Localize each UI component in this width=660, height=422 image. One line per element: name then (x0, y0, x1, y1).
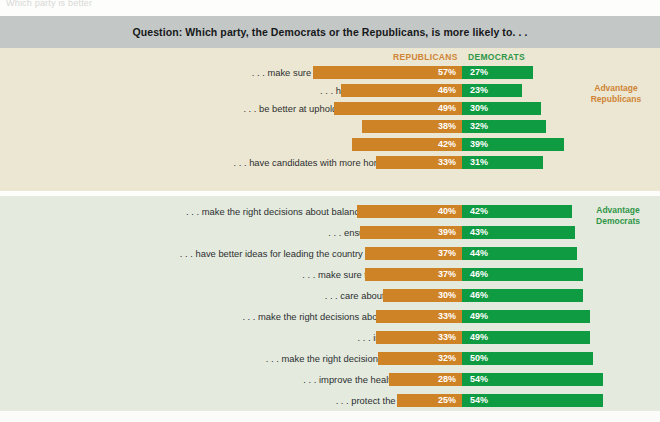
row-bars: 37%44% (0, 245, 660, 262)
value-republican: 38% (418, 120, 456, 133)
callout-advantage-republicans: Advantage Republicans (578, 83, 654, 105)
chart-row: . . . ensure a strong economy?39%43% (0, 224, 660, 241)
value-republican: 46% (418, 84, 456, 97)
value-democrat: 49% (470, 331, 508, 344)
question-text: Question: Which party, the Democrats or … (132, 26, 527, 38)
question-banner: Question: Which party, the Democrats or … (0, 16, 660, 48)
value-republican: 30% (418, 289, 456, 302)
page-bottom-edge (0, 411, 660, 422)
callout-advantage-democrats: Advantage Democrats (580, 205, 656, 227)
chart-row: . . . have better ideas for leading the … (0, 245, 660, 262)
value-republican: 42% (418, 138, 456, 151)
value-democrat: 54% (470, 394, 508, 407)
value-republican: 40% (418, 205, 456, 218)
value-republican: 33% (418, 310, 456, 323)
row-bars: 38%32% (0, 118, 660, 135)
value-republican: 33% (418, 156, 456, 169)
cropped-header-text: Which party is better (6, 0, 246, 10)
value-democrat: 42% (470, 205, 508, 218)
value-democrat: 43% (470, 226, 508, 239)
legend-republicans: REPUBLICANS (393, 52, 458, 62)
row-bars: 42%39% (0, 136, 660, 153)
value-democrat: 23% (470, 84, 508, 97)
chart-row: . . . make the right decisions about Med… (0, 350, 660, 367)
chart-row: . . . improve education?33%49% (0, 329, 660, 346)
value-republican: 57% (418, 66, 456, 79)
row-bars: 49%30% (0, 100, 660, 117)
row-bars: 30%46% (0, 287, 660, 304)
value-democrat: 39% (470, 138, 508, 151)
value-democrat: 32% (470, 120, 508, 133)
chart-row: . . . make the right decisions about Soc… (0, 308, 660, 325)
value-republican: 32% (418, 352, 456, 365)
chart-row: . . . improve the health-care system?28%… (0, 371, 660, 388)
value-democrat: 46% (470, 268, 508, 281)
chart-row: . . . make the right decisions about bal… (0, 203, 660, 220)
value-democrat: 44% (470, 247, 508, 260)
callout-dem-line2: Democrats (580, 216, 656, 227)
row-bars: 28%54% (0, 371, 660, 388)
callout-rep-line1: Advantage (578, 83, 654, 94)
value-republican: 39% (418, 226, 456, 239)
value-republican: 37% (418, 247, 456, 260)
legend-democrats: DEMOCRATS (468, 52, 525, 62)
chart-row: . . . protect the environment?25%54% (0, 392, 660, 409)
chart-row: . . . reduce taxes?42%39% (0, 136, 660, 153)
row-bars: 57%27% (0, 64, 660, 81)
value-democrat: 31% (470, 156, 508, 169)
value-democrat: 46% (470, 289, 508, 302)
chart-row: . . . be better at upholding traditional… (0, 100, 660, 117)
row-bars: 33%31% (0, 154, 660, 171)
chart-row: . . . make sure U.S. military defenses a… (0, 64, 660, 81)
value-democrat: 54% (470, 373, 508, 386)
value-democrat: 30% (470, 102, 508, 115)
value-republican: 28% (418, 373, 456, 386)
row-bars: 40%42% (0, 203, 660, 220)
callout-rep-line2: Republicans (578, 94, 654, 105)
chart-row: . . . make sure the tax system is fair?3… (0, 266, 660, 283)
value-republican: 37% (418, 268, 456, 281)
callout-dem-line1: Advantage (580, 205, 656, 216)
chart-row: . . . care about people like you?30%46% (0, 287, 660, 304)
value-democrat: 27% (470, 66, 508, 79)
chart-row: . . . have candidates with more honesty … (0, 154, 660, 171)
row-bars: 37%46% (0, 266, 660, 283)
row-bars: 46%23% (0, 82, 660, 99)
chart-row: . . . have high ethical standards?46%23% (0, 82, 660, 99)
row-bars: 33%49% (0, 308, 660, 325)
row-bars: 25%54% (0, 392, 660, 409)
row-bars: 39%43% (0, 224, 660, 241)
row-bars: 33%49% (0, 329, 660, 346)
chart-row: . . . reduce crime?38%32% (0, 118, 660, 135)
value-republican: 49% (418, 102, 456, 115)
value-republican: 25% (418, 394, 456, 407)
value-democrat: 50% (470, 352, 508, 365)
value-democrat: 49% (470, 310, 508, 323)
value-republican: 33% (418, 331, 456, 344)
legend: REPUBLICANS DEMOCRATS (0, 50, 660, 64)
chart-page: Which party is better Question: Which pa… (0, 0, 660, 422)
row-bars: 32%50% (0, 350, 660, 367)
